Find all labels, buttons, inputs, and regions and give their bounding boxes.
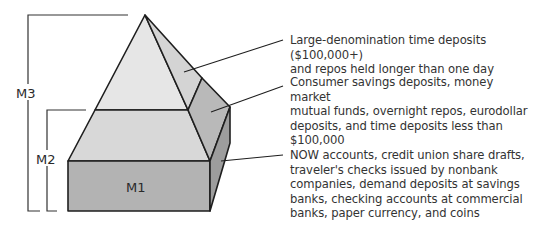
m2-front-face: [68, 110, 210, 161]
m3-bracket-label: M3: [16, 86, 36, 101]
m2-description: Consumer savings deposits, money market …: [290, 75, 537, 148]
m1-box-label: M1: [126, 180, 146, 195]
m1-leader-line: [221, 155, 283, 161]
m3-leader-line: [184, 40, 283, 72]
m3-description: Large-denomination time deposits ($100,0…: [290, 33, 537, 77]
m2-bracket-label: M2: [36, 152, 56, 167]
m1-description: NOW accounts, credit union share drafts,…: [290, 148, 525, 221]
